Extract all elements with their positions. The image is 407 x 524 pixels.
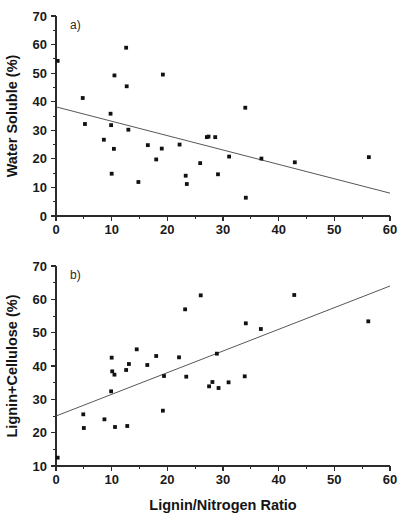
data-point (178, 143, 182, 147)
panel-tag: a) (70, 18, 81, 32)
data-point (260, 157, 264, 161)
y-tick-label: 30 (33, 123, 47, 138)
y-tick-label: 0 (40, 209, 47, 224)
data-point (81, 96, 85, 100)
data-point (109, 123, 113, 127)
data-point (124, 46, 128, 50)
x-tick-label: 30 (216, 472, 230, 487)
data-point (109, 112, 113, 116)
data-point (146, 143, 150, 147)
data-point (184, 174, 188, 178)
data-point (136, 180, 140, 184)
data-point (112, 147, 116, 151)
x-tick-label: 60 (383, 222, 397, 237)
data-point (243, 106, 247, 110)
x-tick-label: 10 (104, 472, 118, 487)
y-axis-title: Water Soluble (%) (4, 54, 20, 177)
data-point (124, 368, 128, 372)
data-point (113, 373, 117, 377)
y-tick-label: 60 (33, 292, 47, 307)
x-tick-label: 0 (52, 222, 59, 237)
data-point (127, 362, 131, 366)
data-point (110, 172, 114, 176)
data-point (177, 355, 181, 359)
y-axis-title: Lignin+Cellulose (%) (4, 294, 20, 437)
data-point (244, 321, 248, 325)
data-point (113, 74, 117, 78)
data-points (56, 46, 371, 200)
data-point (292, 293, 296, 297)
data-point (113, 425, 117, 429)
panel-tag: b) (70, 268, 81, 282)
data-point (154, 158, 158, 162)
y-tick-label: 30 (33, 392, 47, 407)
y-tick-label: 70 (33, 259, 47, 274)
data-point (215, 352, 219, 356)
y-tick-label: 40 (33, 94, 47, 109)
data-point (145, 363, 149, 367)
x-tick-label: 30 (216, 222, 230, 237)
data-point (243, 374, 247, 378)
x-tick-label: 50 (327, 472, 341, 487)
x-axis-title: Lignin/Nitrogen Ratio (149, 497, 297, 513)
x-tick-label: 40 (271, 472, 285, 487)
data-point (199, 293, 203, 297)
scatter-figure: 0102030405060700102030405060a)Water Solu… (0, 0, 407, 524)
data-point (103, 417, 107, 421)
panel-a-water-soluble: 0102030405060700102030405060a)Water Solu… (0, 0, 407, 248)
data-point (184, 375, 188, 379)
data-point (83, 122, 87, 126)
data-point (160, 147, 164, 151)
data-point (207, 384, 211, 388)
data-point (110, 356, 114, 360)
x-tick-label: 20 (160, 222, 174, 237)
y-tick-label: 20 (33, 425, 47, 440)
y-tick-label: 40 (33, 359, 47, 374)
data-point (183, 307, 187, 311)
data-points (56, 293, 370, 459)
data-point (161, 409, 165, 413)
data-point (211, 380, 215, 384)
data-point (56, 456, 60, 460)
x-tick-label: 0 (52, 472, 59, 487)
data-point (162, 374, 166, 378)
data-point (109, 389, 113, 393)
data-point (135, 347, 139, 351)
panel-b-plot: 102030405060700102030405060b)Lignin+Cell… (0, 248, 407, 524)
regression-line (56, 107, 390, 193)
y-tick-label: 50 (33, 325, 47, 340)
y-tick-label: 60 (33, 37, 47, 52)
x-tick-label: 50 (327, 222, 341, 237)
data-point (213, 135, 217, 139)
panel-a-plot: 0102030405060700102030405060a)Water Solu… (0, 0, 407, 248)
y-tick-label: 10 (33, 459, 47, 474)
data-point (244, 196, 248, 200)
data-point (56, 59, 60, 63)
x-tick-label: 10 (104, 222, 118, 237)
data-point (293, 160, 297, 164)
data-point (227, 380, 231, 384)
x-tick-label: 40 (271, 222, 285, 237)
data-point (185, 182, 189, 186)
panel-b-lignin-cellulose: 102030405060700102030405060b)Lignin+Cell… (0, 248, 407, 524)
data-point (81, 412, 85, 416)
data-point (126, 128, 130, 132)
data-point (259, 327, 263, 331)
data-point (154, 354, 158, 358)
data-point (161, 73, 165, 77)
x-tick-label: 20 (160, 472, 174, 487)
data-point (198, 161, 202, 165)
data-point (367, 155, 371, 159)
data-point (125, 424, 129, 428)
data-point (227, 155, 231, 159)
regression-line (56, 286, 390, 416)
y-tick-label: 50 (33, 66, 47, 81)
x-tick-label: 60 (383, 472, 397, 487)
data-point (102, 138, 106, 142)
y-tick-label: 10 (33, 180, 47, 195)
y-tick-label: 70 (33, 9, 47, 24)
y-tick-label: 20 (33, 151, 47, 166)
data-point (125, 84, 129, 88)
data-point (217, 386, 221, 390)
data-point (366, 319, 370, 323)
